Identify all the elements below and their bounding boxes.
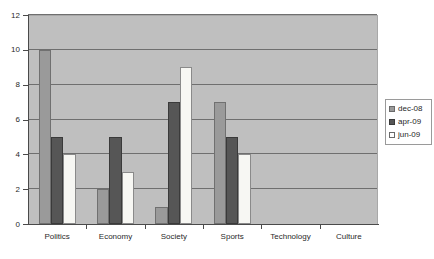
y-tick-label: 2 [16,186,20,194]
bar-politics-jun-09 [63,154,75,224]
x-tick-label: Sports [203,233,261,241]
x-tick-mark [203,224,204,229]
y-tick-mark: 10 [23,50,28,51]
legend-item-dec-08: dec-08 [389,103,429,115]
gridline [28,188,377,189]
x-tick-label: Culture [320,233,378,241]
y-tick-label: 12 [11,12,20,20]
y-tick-label: 0 [16,221,20,229]
y-tick-label: 10 [11,46,20,54]
gridline [28,14,377,15]
bar-politics-dec-08 [39,50,51,224]
gridline [28,119,377,120]
legend-swatch-icon [389,119,395,125]
x-tick-mark [261,224,262,229]
x-tick-mark [320,224,321,229]
bar-economy-dec-08 [97,189,109,224]
x-tick-label: Politics [28,233,86,241]
y-tick-label: 6 [16,116,20,124]
y-tick-mark: 6 [23,120,28,121]
y-axis-line [28,15,29,225]
legend-label: dec-08 [398,105,422,113]
bar-sports-jun-09 [238,154,250,224]
legend-label: jun-09 [398,131,420,139]
y-tick-mark: 0 [23,224,28,225]
bar-economy-jun-09 [122,172,134,224]
gridline [28,49,377,50]
x-tick-label: Society [145,233,203,241]
legend-swatch-icon [389,106,395,112]
x-tick-label: Technology [261,233,319,241]
x-tick-label: Economy [86,233,144,241]
x-tick-mark [145,224,146,229]
bar-society-jun-09 [180,67,192,224]
y-tick-mark: 12 [23,15,28,16]
bar-sports-apr-09 [226,137,238,224]
bar-economy-apr-09 [109,137,121,224]
bar-sports-dec-08 [214,102,226,224]
bar-politics-apr-09 [51,137,63,224]
plot-area [28,15,378,224]
y-tick-label: 8 [16,81,20,89]
bar-society-apr-09 [168,102,180,224]
legend-label: apr-09 [398,118,421,126]
x-tick-mark [86,224,87,229]
gridline [28,84,377,85]
gridline [28,153,377,154]
y-tick-mark: 2 [23,189,28,190]
y-tick-label: 4 [16,151,20,159]
y-tick-mark: 4 [23,154,28,155]
legend-item-apr-09: apr-09 [389,116,429,128]
legend-item-jun-09: jun-09 [389,129,429,141]
bar-chart: 024681012 PoliticsEconomySocietySportsTe… [0,0,434,259]
y-tick-mark: 8 [23,85,28,86]
legend-swatch-icon [389,132,395,138]
chart-legend: dec-08apr-09jun-09 [385,99,432,145]
bar-society-dec-08 [155,207,167,224]
